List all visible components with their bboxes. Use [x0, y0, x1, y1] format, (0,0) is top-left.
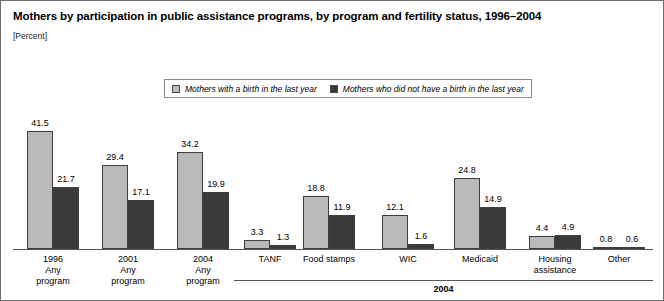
- bar-value-label: 34.2: [171, 139, 209, 149]
- bar-value-label: 21.7: [47, 174, 85, 184]
- category-label: WIC: [368, 254, 448, 265]
- bar: [177, 152, 203, 249]
- bar-value-label: 1.6: [402, 231, 440, 241]
- bar-value-label: 0.6: [613, 234, 651, 244]
- bar-value-label: 41.5: [21, 118, 59, 128]
- bar: [329, 215, 355, 249]
- bar-value-label: 4.9: [549, 222, 587, 232]
- bar-value-label: 29.4: [96, 152, 134, 162]
- bar-value-label: 1.3: [264, 232, 302, 242]
- bar-value-label: 12.1: [376, 202, 414, 212]
- bar-value-label: 11.9: [323, 202, 361, 212]
- bar: [27, 131, 53, 249]
- bar: [203, 192, 229, 249]
- group-bracket-label: 2004: [234, 284, 653, 294]
- bar: [128, 200, 154, 249]
- category-label: Medicaid: [440, 254, 520, 265]
- bar: [102, 165, 128, 249]
- bar: [480, 207, 506, 249]
- bar-value-label: 18.8: [297, 183, 335, 193]
- bar-value-label: 17.1: [122, 187, 160, 197]
- bar-value-label: 24.8: [448, 165, 486, 175]
- bar-value-label: 19.9: [197, 179, 235, 189]
- category-label: Other: [579, 254, 659, 265]
- bar: [555, 235, 581, 249]
- bar: [53, 187, 79, 249]
- group-bracket-line: [234, 280, 653, 281]
- bar: [529, 236, 555, 249]
- chart-figure: Mothers by participation in public assis…: [0, 0, 664, 301]
- bar-value-label: 14.9: [474, 194, 512, 204]
- x-axis-baseline: [13, 249, 653, 250]
- bar: [454, 178, 480, 249]
- plot-area: 41.521.71996 Any program29.417.12001 Any…: [1, 1, 664, 301]
- category-label: Food stamps: [289, 254, 369, 265]
- category-label: 1996 Any program: [13, 254, 93, 287]
- category-label: 2001 Any program: [88, 254, 168, 287]
